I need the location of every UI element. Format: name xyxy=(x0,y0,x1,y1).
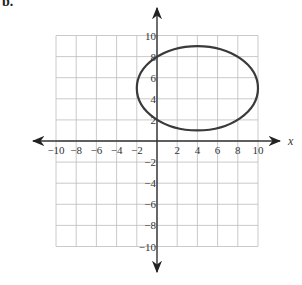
x-tick-label: −4 xyxy=(111,144,123,156)
axes: x xyxy=(33,8,294,272)
x-tick-label: 8 xyxy=(235,144,241,156)
y-tick-label: −2 xyxy=(144,156,156,168)
coordinate-plane: b. x −10−8−6−4−2246810108642−2−4−6−8−10 xyxy=(0,0,302,285)
y-tick-label: 10 xyxy=(145,30,157,42)
x-tick-label: −2 xyxy=(131,144,143,156)
y-tick-label: −6 xyxy=(144,198,156,210)
y-tick-label: 4 xyxy=(151,93,157,105)
x-tick-label: 10 xyxy=(253,144,265,156)
y-tick-label: 6 xyxy=(151,72,157,84)
part-label: b. xyxy=(2,0,13,9)
x-tick-label: 6 xyxy=(215,144,221,156)
x-tick-label: −6 xyxy=(91,144,103,156)
x-tick-label: −8 xyxy=(70,144,82,156)
y-tick-label: −4 xyxy=(144,177,156,189)
y-tick-label: −10 xyxy=(139,241,157,253)
x-tick-label: −10 xyxy=(47,144,65,156)
y-tick-label: −8 xyxy=(144,219,156,231)
x-axis-label: x xyxy=(287,134,294,148)
x-tick-label: 4 xyxy=(195,144,201,156)
x-tick-label: 2 xyxy=(174,144,180,156)
